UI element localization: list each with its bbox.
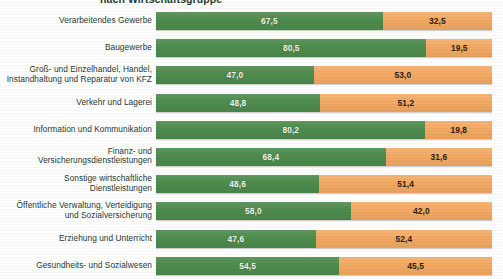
bar-value-green: 47,0 — [227, 70, 244, 80]
bar-value-green: 80,5 — [283, 43, 300, 53]
stacked-bar: 80,219,8 — [156, 121, 492, 139]
bar-value-orange: 31,6 — [431, 152, 448, 162]
bar-segment-orange: 31,6 — [386, 148, 492, 166]
category-label: Baugewerbe — [0, 43, 152, 52]
category-label: Verkehr und Lagerei — [0, 98, 152, 107]
bar-segment-green: 54,5 — [156, 257, 339, 275]
stacked-bar: 48,651,4 — [156, 175, 492, 193]
bar-segment-green: 58,0 — [156, 202, 351, 220]
bar-row: Verarbeitendes Gewerbe67,532,5 — [0, 12, 503, 30]
chart-subtitle-clipped: nach Wirtschaftsgruppe — [0, 0, 503, 8]
bar-segment-green: 67,5 — [156, 12, 383, 30]
chart-container: nach Wirtschaftsgruppe Verarbeitendes Ge… — [0, 0, 503, 279]
bar-value-orange: 19,5 — [451, 43, 468, 53]
stacked-bar: 67,532,5 — [156, 12, 492, 30]
bar-segment-green: 48,8 — [156, 94, 320, 112]
bar-segment-orange: 51,2 — [320, 94, 492, 112]
category-label: Groß- und Einzelhandel, Handel, Instandh… — [0, 65, 152, 84]
bar-value-orange: 32,5 — [429, 16, 446, 26]
bar-segment-green: 80,5 — [156, 39, 426, 57]
chart-subtitle: nach Wirtschaftsgruppe — [100, 0, 222, 5]
bar-value-green: 58,0 — [245, 206, 262, 216]
bar-row: Information und Kommunikation80,219,8 — [0, 121, 503, 139]
bar-row: Öffentliche Verwaltung, Verteidigung und… — [0, 202, 503, 220]
stacked-bar: 47,652,4 — [156, 230, 492, 248]
bar-value-orange: 51,2 — [398, 98, 415, 108]
stacked-bar: 48,851,2 — [156, 94, 492, 112]
bar-segment-green: 47,6 — [156, 230, 316, 248]
bar-row: Groß- und Einzelhandel, Handel, Instandh… — [0, 66, 503, 84]
bar-segment-orange: 45,5 — [339, 257, 492, 275]
bar-rows: Verarbeitendes Gewerbe67,532,5Baugewerbe… — [0, 8, 503, 279]
stacked-bar: 58,042,0 — [156, 202, 492, 220]
bar-row: Finanz- und Versicherungsdienstleistunge… — [0, 148, 503, 166]
bar-row: Erziehung und Unterricht47,652,4 — [0, 230, 503, 248]
bar-segment-green: 68,4 — [156, 148, 386, 166]
bar-row: Verkehr und Lagerei48,851,2 — [0, 94, 503, 112]
bar-value-orange: 53,0 — [395, 70, 412, 80]
bar-value-orange: 45,5 — [407, 261, 424, 271]
bar-value-green: 48,6 — [229, 179, 246, 189]
bar-segment-orange: 32,5 — [383, 12, 492, 30]
bar-value-green: 80,2 — [282, 125, 299, 135]
stacked-bar: 68,431,6 — [156, 148, 492, 166]
category-label: Information und Kommunikation — [0, 125, 152, 134]
bar-value-green: 48,8 — [230, 98, 247, 108]
bar-value-orange: 19,8 — [450, 125, 467, 135]
bar-segment-orange: 52,4 — [316, 230, 492, 248]
bar-segment-orange: 19,5 — [426, 39, 492, 57]
bar-segment-green: 80,2 — [156, 121, 425, 139]
bar-segment-green: 47,0 — [156, 66, 314, 84]
bar-value-orange: 42,0 — [413, 206, 430, 216]
bar-value-orange: 52,4 — [396, 234, 413, 244]
bar-segment-green: 48,6 — [156, 175, 319, 193]
bar-value-green: 47,6 — [228, 234, 245, 244]
bar-segment-orange: 42,0 — [351, 202, 492, 220]
category-label: Finanz- und Versicherungsdienstleistunge… — [0, 147, 152, 166]
bar-value-green: 67,5 — [261, 16, 278, 26]
category-label: Sonstige wirtschaftliche Dienstleistunge… — [0, 174, 152, 193]
category-label: Gesundheits- und Sozialwesen — [0, 261, 152, 270]
bar-row: Sonstige wirtschaftliche Dienstleistunge… — [0, 175, 503, 193]
bar-segment-orange: 19,8 — [425, 121, 492, 139]
stacked-bar: 47,053,0 — [156, 66, 492, 84]
bar-row: Baugewerbe80,519,5 — [0, 39, 503, 57]
bar-value-green: 68,4 — [263, 152, 280, 162]
bar-value-green: 54,5 — [239, 261, 256, 271]
stacked-bar: 80,519,5 — [156, 39, 492, 57]
stacked-bar: 54,545,5 — [156, 257, 492, 275]
bar-row: Gesundheits- und Sozialwesen54,545,5 — [0, 257, 503, 275]
category-label: Öffentliche Verwaltung, Verteidigung und… — [0, 201, 152, 220]
bar-segment-orange: 53,0 — [314, 66, 492, 84]
bar-value-orange: 51,4 — [397, 179, 414, 189]
category-label: Erziehung und Unterricht — [0, 234, 152, 243]
category-label: Verarbeitendes Gewerbe — [0, 16, 152, 25]
bar-segment-orange: 51,4 — [319, 175, 492, 193]
